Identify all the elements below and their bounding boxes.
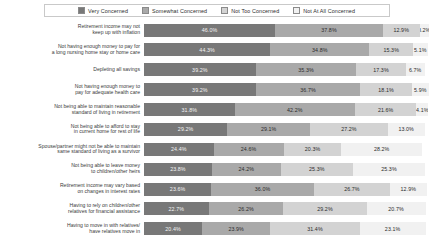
- bar-segment: 25.3%: [353, 163, 425, 176]
- bar-segment: 34.8%: [270, 43, 369, 56]
- stacked-bar: 22.7%26.2%29.2%20.7%: [144, 202, 429, 215]
- segment-value-label: 23.6%: [170, 186, 186, 192]
- segment-value-label: 24.2%: [239, 166, 255, 172]
- segment-value-label: 23.9%: [228, 226, 244, 232]
- segment-value-label: 25.3%: [381, 166, 397, 172]
- bar-segment: 24.4%: [144, 143, 214, 156]
- bar-segment: 28.2%: [341, 143, 421, 156]
- bar-segment: 6.7%: [406, 63, 425, 76]
- stacked-bar: 39.2%36.7%18.1%5.9%: [144, 83, 429, 96]
- category-label: Retirement income may vary based on chan…: [2, 183, 144, 195]
- segment-value-label: 25.3%: [309, 166, 325, 172]
- segment-value-label: 36.0%: [255, 186, 271, 192]
- category-label: Depleting all savings: [2, 67, 144, 73]
- segment-value-label: 34.8%: [312, 47, 328, 53]
- bar-segment: 26.2%: [209, 202, 284, 215]
- stacked-bar: 23.6%36.0%26.7%12.9%: [144, 183, 429, 196]
- legend-swatch-icon: [221, 7, 228, 14]
- bar-segment: 13.0%: [388, 123, 425, 136]
- segment-value-label: 36.7%: [300, 87, 316, 93]
- bar-segment: 26.7%: [314, 183, 390, 196]
- legend-label: Not At All Concerned: [303, 8, 355, 14]
- bar-segment: 25.3%: [281, 163, 353, 176]
- legend-label: Very Concerned: [88, 8, 128, 14]
- stacked-bar: 39.2%35.3%17.3%6.7%: [144, 63, 429, 76]
- bar-segment: 24.2%: [212, 163, 281, 176]
- bar-segment: 20.3%: [284, 143, 342, 156]
- stacked-bar: 29.2%29.1%27.2%13.0%: [144, 123, 429, 136]
- category-label: Not having enough money to pay for adequ…: [2, 84, 144, 96]
- segment-value-label: 21.6%: [378, 107, 394, 113]
- legend-item-not-at-all-concerned: Not At All Concerned: [293, 7, 355, 14]
- segment-value-label: 37.8%: [321, 27, 337, 33]
- bar-segment: 12.9%: [390, 183, 427, 196]
- chart-row: Having to move in with relatives/ have r…: [2, 221, 429, 237]
- bar-segment: 27.2%: [310, 123, 388, 136]
- bar-segment: 46.0%: [144, 24, 275, 37]
- segment-value-label: 24.6%: [241, 146, 257, 152]
- bar-segment: 20.4%: [144, 222, 202, 235]
- chart-row: Not being able to maintain reasonable st…: [2, 102, 429, 118]
- segment-value-label: 20.7%: [388, 206, 404, 212]
- bar-segment: 3.2%: [420, 24, 429, 37]
- legend-item-somewhat-concerned: Somewhat Concerned: [142, 7, 207, 14]
- chart-row: Not having enough money to pay for a lon…: [2, 42, 429, 58]
- segment-value-label: 29.2%: [317, 206, 333, 212]
- category-label: Having to move in with relatives/ have r…: [2, 223, 144, 235]
- bar-segment: 23.8%: [144, 163, 212, 176]
- segment-value-label: 23.8%: [170, 166, 186, 172]
- segment-value-label: 24.4%: [171, 146, 187, 152]
- chart-row: Retirement income may not keep up with i…: [2, 22, 429, 38]
- segment-value-label: 27.2%: [341, 126, 357, 132]
- segment-value-label: 44.3%: [199, 47, 215, 53]
- stacked-bar: 23.8%24.2%25.3%25.3%: [144, 163, 429, 176]
- legend-item-very-concerned: Very Concerned: [78, 7, 128, 14]
- bar-segment: 36.7%: [256, 83, 361, 96]
- segment-value-label: 31.4%: [307, 226, 323, 232]
- legend-label: Not Too Concerned: [231, 8, 279, 14]
- bar-segment: 29.2%: [283, 202, 366, 215]
- bar-segment: 23.9%: [202, 222, 270, 235]
- bar-segment: 17.3%: [356, 63, 405, 76]
- segment-value-label: 35.3%: [298, 67, 314, 73]
- bar-segment: 39.2%: [144, 83, 256, 96]
- category-label: Not being able to leave money to childre…: [2, 163, 144, 175]
- chart-row: Not having enough money to pay for adequ…: [2, 82, 429, 98]
- bar-segment: 24.6%: [214, 143, 284, 156]
- category-label: Not being able to afford to stay in curr…: [2, 124, 144, 136]
- category-label: Not having enough money to pay for a lon…: [2, 44, 144, 56]
- segment-value-label: 12.9%: [393, 27, 409, 33]
- segment-value-label: 46.0%: [202, 27, 218, 33]
- bar-segment: 29.2%: [144, 123, 227, 136]
- bar-segment: 31.4%: [270, 222, 359, 235]
- plot-area: Retirement income may not keep up with i…: [2, 22, 431, 237]
- stacked-bar: 24.4%24.6%20.3%28.2%: [144, 143, 429, 156]
- stacked-bar: 44.3%34.8%15.3%5.1%: [144, 43, 429, 56]
- stacked-bar-chart: Very Concerned Somewhat Concerned Not To…: [0, 0, 433, 239]
- segment-value-label: 29.2%: [178, 126, 194, 132]
- bar-segment: 20.7%: [367, 202, 426, 215]
- stacked-bar: 31.8%42.2%21.6%4.1%: [144, 103, 429, 116]
- stacked-bar: 20.4%23.9%31.4%23.1%: [144, 222, 429, 235]
- segment-value-label: 20.3%: [305, 146, 321, 152]
- bar-segment: 23.6%: [144, 183, 211, 196]
- category-label: Not being able to maintain reasonable st…: [2, 104, 144, 116]
- chart-row: Depleting all savings39.2%35.3%17.3%6.7%: [2, 62, 429, 78]
- segment-value-label: 31.8%: [182, 107, 198, 113]
- bar-segment: 42.2%: [235, 103, 355, 116]
- legend-swatch-icon: [293, 7, 300, 14]
- bar-segment: 37.8%: [275, 24, 383, 37]
- legend-label: Somewhat Concerned: [152, 8, 207, 14]
- chart-row: Not being able to leave money to childre…: [2, 161, 429, 177]
- bar-segment: 36.0%: [211, 183, 314, 196]
- segment-value-label: 3.2%: [420, 27, 429, 33]
- bar-segment: 5.9%: [412, 83, 429, 96]
- bar-segment: 23.1%: [360, 222, 426, 235]
- category-label: Having to rely on children/other relativ…: [2, 203, 144, 215]
- chart-legend: Very Concerned Somewhat Concerned Not To…: [44, 4, 390, 17]
- segment-value-label: 5.9%: [414, 87, 426, 93]
- legend-swatch-icon: [78, 7, 85, 14]
- segment-value-label: 20.4%: [165, 226, 181, 232]
- legend-item-not-too-concerned: Not Too Concerned: [221, 7, 279, 14]
- bar-segment: 22.7%: [144, 202, 209, 215]
